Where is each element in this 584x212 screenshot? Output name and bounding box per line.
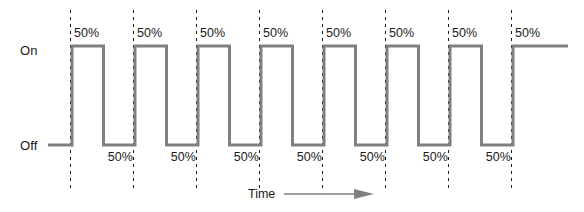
time-axis-group: Time <box>248 186 376 202</box>
time-axis-label: Time <box>248 187 275 201</box>
duty-label-off: 50% <box>225 150 259 164</box>
duty-label-off: 50% <box>288 150 322 164</box>
duty-label-on: 50% <box>515 26 540 40</box>
duty-label-on: 50% <box>326 26 351 40</box>
right-arrow-icon <box>284 188 376 200</box>
duty-label-off: 50% <box>162 150 196 164</box>
duty-label-on: 50% <box>74 26 99 40</box>
axis-label-on: On <box>20 43 38 58</box>
pwm-duty-cycle-figure: On Off 50%50%50%50%50%50%50%50% 50%50%50… <box>0 0 584 212</box>
duty-label-on: 50% <box>137 26 162 40</box>
duty-label-on: 50% <box>452 26 477 40</box>
duty-label-on: 50% <box>389 26 414 40</box>
axis-label-off: Off <box>20 138 37 153</box>
duty-label-off: 50% <box>477 150 511 164</box>
duty-label-off: 50% <box>99 150 133 164</box>
duty-label-on: 50% <box>263 26 288 40</box>
duty-label-off: 50% <box>414 150 448 164</box>
duty-label-on: 50% <box>200 26 225 40</box>
pwm-waveform-trace <box>48 46 568 145</box>
duty-label-off: 50% <box>351 150 385 164</box>
